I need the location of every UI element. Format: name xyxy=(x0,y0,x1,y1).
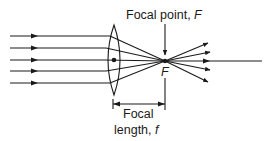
arrowhead-icon xyxy=(31,34,38,39)
focal-length-label-text: length, xyxy=(114,123,155,137)
arrowhead-icon xyxy=(31,69,38,74)
focal-length-label-line1: Focal xyxy=(123,108,154,121)
incoming-rays xyxy=(10,36,110,83)
axis-arrowhead-icon xyxy=(203,59,210,64)
arrowhead-icon xyxy=(31,81,38,86)
arrowhead-icon xyxy=(31,58,38,63)
dimension-arrowhead-left-icon xyxy=(113,102,120,107)
focal-point-label: Focal point, F xyxy=(126,9,202,22)
focal-point-label-text: Focal point, xyxy=(126,8,194,22)
focal-length-symbol: f xyxy=(155,123,158,137)
focus-marker-label: F xyxy=(161,66,169,79)
focal-length-label-line2: length, f xyxy=(114,124,159,137)
focal-point-label-symbol: F xyxy=(194,8,202,22)
dimension-arrowhead-right-icon xyxy=(158,102,165,107)
focal-point-dot xyxy=(163,59,167,63)
arrowhead-icon xyxy=(31,46,38,51)
